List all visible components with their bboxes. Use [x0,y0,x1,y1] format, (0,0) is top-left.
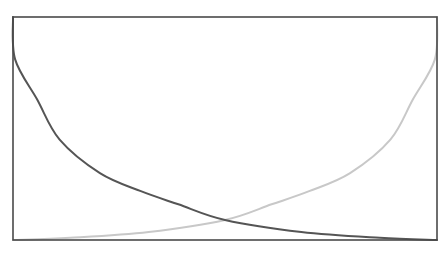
line-chart [0,0,446,253]
series-decreasing-line [13,17,437,240]
series-increasing-line [13,17,437,240]
plot-frame [13,17,437,240]
series-layer [13,17,438,240]
